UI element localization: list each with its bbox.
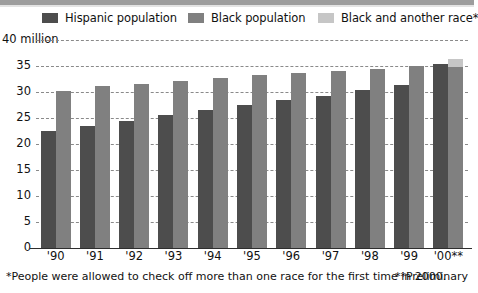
bar-hispanic-population — [158, 115, 173, 248]
footnote-left: *People were allowed to check off more t… — [6, 270, 446, 283]
x-axis-tick-label: '99 — [400, 249, 418, 263]
bar-black-and-another-race — [448, 59, 463, 67]
legend-swatch-icon — [42, 13, 58, 23]
bar-black-population — [252, 75, 267, 248]
legend-swatch-icon — [188, 13, 204, 23]
x-axis-tick-label: '92 — [125, 249, 143, 263]
bar-black-population — [173, 81, 188, 248]
top-band-light-decoration — [0, 5, 474, 7]
x-axis-tick-label: '97 — [322, 249, 340, 263]
legend-item-black-and-another-race: Black and another race* — [318, 9, 478, 27]
bar-black-population — [331, 71, 346, 248]
bar-black-population — [370, 69, 385, 248]
bar-hispanic-population — [316, 96, 331, 248]
legend-label: Black and another race* — [341, 11, 478, 25]
y-axis-labels: 0510152025303540 million — [0, 40, 36, 248]
bar-hispanic-population — [355, 90, 370, 248]
legend-swatch-icon — [318, 13, 334, 23]
y-axis-tick-label: 25 — [16, 112, 31, 124]
y-axis-tick-label: 10 — [16, 190, 31, 202]
plot-area — [36, 40, 468, 248]
bar-black-population — [448, 59, 463, 248]
bar-hispanic-population — [80, 126, 95, 248]
bar-black-population — [409, 66, 424, 248]
x-axis-labels: '90'91'92'93'94'95'96'97'98'99'00** — [36, 249, 468, 265]
bar-hispanic-population — [198, 110, 213, 248]
x-axis-tick-label: '90 — [47, 249, 65, 263]
bar-hispanic-population — [433, 64, 448, 248]
bar-hispanic-population — [276, 100, 291, 248]
x-axis-tick-label: '91 — [86, 249, 104, 263]
bar-hispanic-population — [119, 121, 134, 248]
x-axis-tick-label: '96 — [282, 249, 300, 263]
bar-hispanic-population — [394, 85, 409, 248]
x-axis-tick-label: '94 — [204, 249, 222, 263]
y-axis-tick-label: 5 — [24, 216, 31, 228]
y-axis-tick-label: 20 — [16, 138, 31, 150]
legend-item-hispanic-population: Hispanic population — [42, 9, 177, 27]
bar-hispanic-population — [41, 131, 56, 248]
legend-label: Black population — [211, 11, 305, 25]
legend-label: Hispanic population — [65, 11, 177, 25]
bars-layer — [36, 40, 468, 248]
y-axis-tick-label: 35 — [16, 60, 31, 72]
y-axis-tick-label: 30 — [16, 86, 31, 98]
bar-black-population — [56, 91, 71, 248]
legend-item-black-population: Black population — [188, 9, 305, 27]
bar-black-population — [134, 84, 149, 248]
y-axis-tick-label: 15 — [16, 164, 31, 176]
bar-black-population — [213, 78, 228, 248]
x-axis-tick-label: '95 — [243, 249, 261, 263]
chart-legend: Hispanic population Black population Bla… — [0, 9, 474, 27]
x-axis-tick-label: '93 — [165, 249, 183, 263]
x-axis-tick-label: '98 — [361, 249, 379, 263]
bar-hispanic-population — [237, 105, 252, 248]
footnote-right: **Preliminary — [395, 270, 468, 283]
x-axis-tick-label: '00** — [434, 249, 463, 263]
bar-black-population — [291, 73, 306, 248]
bar-black-population — [95, 86, 110, 248]
